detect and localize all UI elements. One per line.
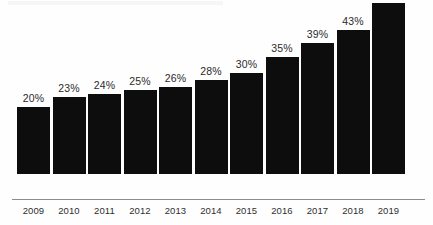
x-axis-tick-label: 2014: [195, 205, 228, 217]
bar: [372, 3, 405, 174]
x-axis-tick-label: 2011: [88, 205, 121, 217]
plot-area: 20%23%24%25%26%28%30%35%39%43%51%: [0, 0, 433, 200]
bar: [17, 107, 50, 174]
bar-value-label: 39%: [307, 28, 328, 40]
x-axis-tick-label: 2015: [230, 205, 263, 217]
bar-value-label: 24%: [94, 79, 115, 91]
bar: [88, 94, 121, 174]
bar: [301, 43, 334, 174]
bar-value-label: 43%: [342, 15, 363, 27]
x-axis-tick-label: 2017: [301, 205, 334, 217]
bar: [230, 73, 263, 174]
bar: [195, 80, 228, 174]
x-axis-tick-label: 2010: [53, 205, 86, 217]
bar-value-label: 30%: [236, 58, 257, 70]
bar-value-label: 26%: [165, 72, 186, 84]
bar-chart: 20%23%24%25%26%28%30%35%39%43%51% 200920…: [0, 0, 433, 225]
x-axis-tick-label: 2009: [17, 205, 50, 217]
bar: [159, 87, 192, 174]
x-axis-tick-label: 2018: [337, 205, 370, 217]
x-axis-line: [12, 199, 425, 200]
x-axis-tick-label: 2019: [372, 205, 405, 217]
x-axis-tick-label: 2013: [159, 205, 192, 217]
bar-value-label: 35%: [271, 42, 292, 54]
x-axis-tick-label: 2016: [266, 205, 299, 217]
bar-value-label: 25%: [129, 75, 150, 87]
bar-value-label: 23%: [58, 82, 79, 94]
bar: [266, 57, 299, 174]
bar-value-label: 20%: [23, 92, 44, 104]
x-axis-tick-label: 2012: [124, 205, 157, 217]
bar-value-label: 28%: [200, 65, 221, 77]
bar: [124, 90, 157, 174]
bar: [337, 30, 370, 174]
bar: [53, 97, 86, 174]
